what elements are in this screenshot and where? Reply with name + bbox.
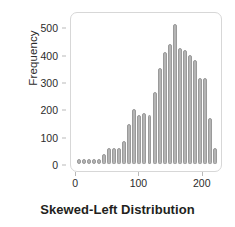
histogram-bar	[183, 50, 187, 164]
y-tick-label: 400	[40, 50, 58, 62]
histogram-bar	[97, 159, 101, 164]
y-tick-mark	[62, 82, 66, 83]
plot-area	[70, 12, 222, 172]
histogram-bar	[92, 159, 96, 164]
chart-title: Skewed-Left Distribution	[0, 202, 235, 217]
y-axis-ticks: 0100200300400500	[0, 0, 66, 185]
y-tick-label: 100	[40, 132, 58, 144]
histogram-bar	[142, 113, 146, 164]
y-tick-mark	[62, 165, 66, 166]
x-tick-mark	[75, 172, 76, 176]
histogram-bar	[102, 154, 106, 164]
x-tick-label: 0	[72, 177, 78, 189]
histogram-figure: Frequency 0100200300400500 0100200 Skewe…	[0, 0, 235, 227]
histogram-bar	[137, 115, 141, 164]
y-tick-label: 300	[40, 77, 58, 89]
x-tick-label: 200	[193, 177, 211, 189]
y-tick-mark	[62, 55, 66, 56]
histogram-bar	[158, 68, 162, 164]
y-tick-mark	[62, 110, 66, 111]
y-tick-mark	[62, 28, 66, 29]
histogram-bar	[213, 148, 217, 164]
x-tick-mark	[138, 172, 139, 176]
histogram-bar	[163, 52, 167, 164]
histogram-bar	[112, 148, 116, 164]
histogram-bar	[122, 141, 126, 164]
x-tick-label: 100	[130, 177, 148, 189]
histogram-bar	[203, 78, 207, 164]
histogram-bar	[87, 159, 91, 164]
histogram-bar	[148, 115, 152, 164]
histogram-bar	[107, 148, 111, 164]
histogram-bar	[132, 109, 136, 164]
histogram-bar	[208, 118, 212, 165]
histogram-bar	[178, 48, 182, 164]
histogram-bars	[71, 13, 221, 171]
histogram-bar	[198, 78, 202, 164]
histogram-bar	[77, 159, 81, 164]
x-tick-mark	[202, 172, 203, 176]
histogram-bar	[153, 92, 157, 165]
y-tick-label: 200	[40, 104, 58, 116]
histogram-bar	[127, 124, 131, 164]
histogram-bar	[82, 159, 86, 164]
y-tick-label: 500	[40, 22, 58, 34]
x-axis-ticks: 0100200	[70, 172, 222, 194]
histogram-bar	[188, 55, 192, 164]
histogram-bar	[173, 24, 177, 164]
histogram-bar	[168, 44, 172, 164]
y-tick-mark	[62, 137, 66, 138]
histogram-bar	[117, 148, 121, 164]
y-tick-label: 0	[52, 159, 58, 171]
histogram-bar	[193, 60, 197, 164]
